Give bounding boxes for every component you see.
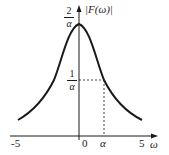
peak-value-label: 2 α bbox=[64, 6, 74, 29]
y-axis-arrow-icon bbox=[77, 5, 82, 12]
spectrum-curve bbox=[18, 24, 142, 120]
tick-5: 5 bbox=[139, 138, 145, 149]
half-numerator: 1 bbox=[67, 69, 77, 81]
x-axis-label: ω bbox=[150, 139, 158, 150]
peak-numerator: 2 bbox=[64, 6, 74, 18]
half-value-label: 1 α bbox=[67, 69, 77, 92]
peak-denominator: α bbox=[64, 18, 74, 29]
tick-alpha: α bbox=[100, 138, 106, 149]
half-denominator: α bbox=[67, 81, 77, 92]
tick-neg5: -5 bbox=[11, 138, 20, 149]
spectrum-chart bbox=[0, 0, 169, 155]
tick-0: 0 bbox=[82, 138, 88, 149]
y-axis-label: |F(ω)| bbox=[85, 4, 113, 15]
